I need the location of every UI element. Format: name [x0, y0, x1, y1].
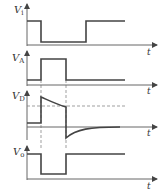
vo-t-label: t: [147, 181, 151, 191]
vd-t-label: t: [147, 128, 151, 138]
time-markers: [41, 80, 66, 150]
vo-label: Vo: [13, 146, 24, 159]
vi-waveform: [27, 21, 125, 42]
vi-label: Vi: [14, 4, 24, 17]
panel-vo: Vo t: [13, 146, 157, 191]
panel-va: VA t: [12, 51, 157, 96]
va-t-label: t: [147, 86, 151, 96]
vi-t-label: t: [147, 47, 151, 57]
vd-label: VD: [12, 90, 25, 103]
vo-waveform: [27, 154, 125, 174]
va-waveform: [27, 59, 125, 80]
panel-vi: Vi t: [14, 4, 157, 57]
panel-vd: VD t: [12, 90, 157, 140]
timing-diagram: Vi t VA t VD t Vo t: [0, 0, 163, 192]
va-label: VA: [12, 52, 25, 65]
